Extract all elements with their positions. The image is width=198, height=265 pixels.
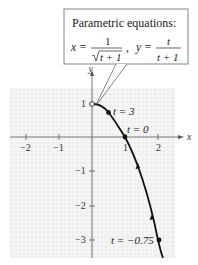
y-eq-den: t + 1	[157, 51, 178, 63]
x-eq-num: 1	[105, 35, 111, 47]
point-t0	[123, 135, 128, 140]
x-tick-label: −1	[53, 142, 64, 153]
grid-background	[10, 88, 175, 258]
x-tick-label: −2	[20, 142, 31, 153]
x-eq-lhs: x =	[70, 41, 87, 53]
annotation-t0: t = 0	[127, 123, 149, 135]
eq-separator: ,	[126, 41, 129, 54]
annotation-tneg075: t = −0.75	[111, 234, 154, 246]
y-tick-label: 1	[81, 98, 86, 109]
y-tick-label: −2	[75, 200, 86, 211]
point-t3	[106, 110, 111, 115]
callout-title: Parametric equations:	[72, 16, 176, 30]
x-axis-arrow-icon	[178, 135, 184, 139]
graph: Parametric equations: x = 1 t + 1 , y = …	[0, 0, 198, 265]
x-axis-label: x	[186, 131, 192, 142]
x-eq-den: t + 1	[100, 51, 121, 63]
y-tick-label: −3	[75, 234, 86, 245]
y-axis-label: y	[88, 63, 94, 74]
open-point-0-1	[90, 102, 95, 107]
annotation-t3: t = 3	[113, 105, 135, 117]
x-tick-label: 1	[123, 142, 128, 153]
y-eq-lhs: y =	[135, 41, 152, 54]
x-tick-label: 2	[156, 142, 161, 153]
y-tick-label: −1	[75, 165, 86, 176]
point-tneg075	[157, 238, 162, 243]
